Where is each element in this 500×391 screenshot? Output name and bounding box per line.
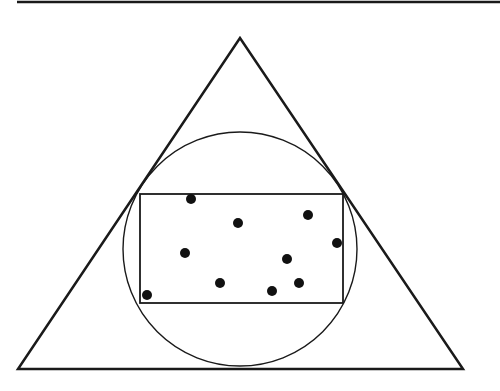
- dot: [332, 238, 342, 248]
- inscribed-rectangle: [140, 194, 343, 303]
- geometry-diagram: [0, 0, 500, 391]
- dot: [303, 210, 313, 220]
- dot: [180, 248, 190, 258]
- dot: [186, 194, 196, 204]
- dots-group: [142, 194, 342, 300]
- inscribed-circle: [123, 132, 357, 366]
- dot: [267, 286, 277, 296]
- dot: [215, 278, 225, 288]
- dot: [233, 218, 243, 228]
- triangle: [18, 38, 463, 369]
- dot: [282, 254, 292, 264]
- dot: [294, 278, 304, 288]
- dot: [142, 290, 152, 300]
